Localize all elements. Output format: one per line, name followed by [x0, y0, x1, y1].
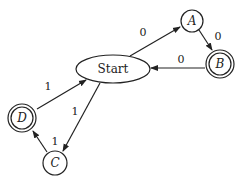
edge-b-to-start: 0 [151, 53, 205, 68]
node-c: C [43, 151, 67, 175]
node-label: Start [98, 62, 129, 76]
edge-d-to-start: 1 [37, 80, 86, 109]
node-b: B [206, 50, 234, 78]
edge-c-to-d: 1 [33, 131, 59, 152]
node-label: B [215, 57, 225, 71]
node-label: C [50, 156, 59, 170]
node-start: Start [76, 55, 150, 83]
fsm-diagram: 0 0 0 1 1 1 Start A B C D [0, 0, 243, 181]
edge-label: 1 [45, 80, 52, 93]
edge-label: 1 [52, 135, 59, 148]
edge-a-to-b: 0 [199, 30, 222, 50]
edge-label: 0 [178, 53, 185, 66]
edge-start-to-c: 1 [63, 83, 100, 151]
node-label: D [16, 111, 27, 125]
edge-start-to-a: 0 [130, 26, 180, 56]
edge-label: 0 [215, 30, 222, 43]
node-label: A [187, 14, 197, 28]
edge-label: 0 [140, 26, 147, 39]
node-d: D [8, 104, 36, 132]
node-a: A [181, 10, 203, 32]
edge-label: 1 [72, 105, 79, 118]
